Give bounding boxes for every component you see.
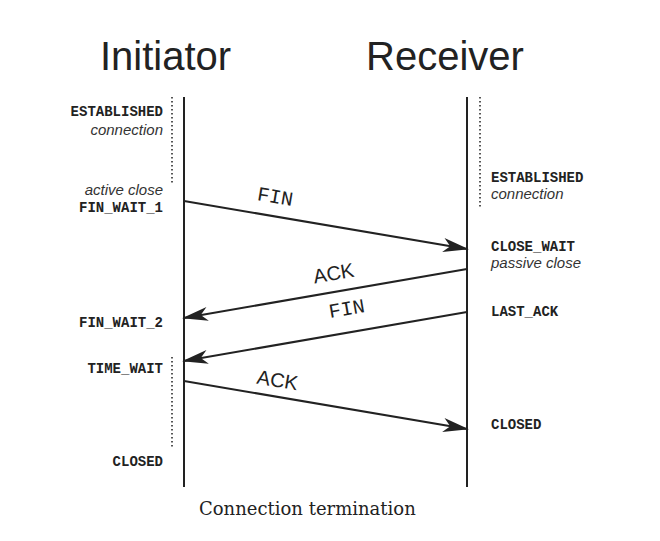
receiver-state-close-wait: CLOSE_WAIT — [491, 240, 575, 254]
initiator-state-fin-wait-2: FIN_WAIT_2 — [79, 316, 163, 330]
diagram-caption: Connection termination — [199, 498, 416, 519]
receiver-state-closed: CLOSED — [491, 418, 541, 432]
initiator-state-fin-wait-1: FIN_WAIT_1 — [79, 201, 163, 215]
initiator-note-connection: connection — [90, 122, 163, 137]
initiator-note-active-close: active close — [85, 182, 163, 197]
receiver-state-last-ack: LAST_ACK — [491, 305, 558, 319]
fin-label-1: FIN — [256, 185, 295, 211]
initiator-state-closed: CLOSED — [113, 455, 163, 469]
initiator-title: Initiator — [100, 36, 231, 76]
initiator-state-established: ESTABLISHED — [71, 105, 163, 119]
ack-arrow-2 — [184, 381, 467, 429]
receiver-state-established: ESTABLISHED — [491, 171, 583, 185]
receiver-title: Receiver — [366, 36, 524, 76]
receiver-note-connection: connection — [491, 186, 564, 201]
initiator-state-time-wait: TIME_WAIT — [87, 362, 163, 376]
receiver-note-passive-close: passive close — [491, 255, 581, 270]
fin-arrow-1 — [184, 201, 467, 249]
fin-arrow-2 — [184, 312, 467, 361]
